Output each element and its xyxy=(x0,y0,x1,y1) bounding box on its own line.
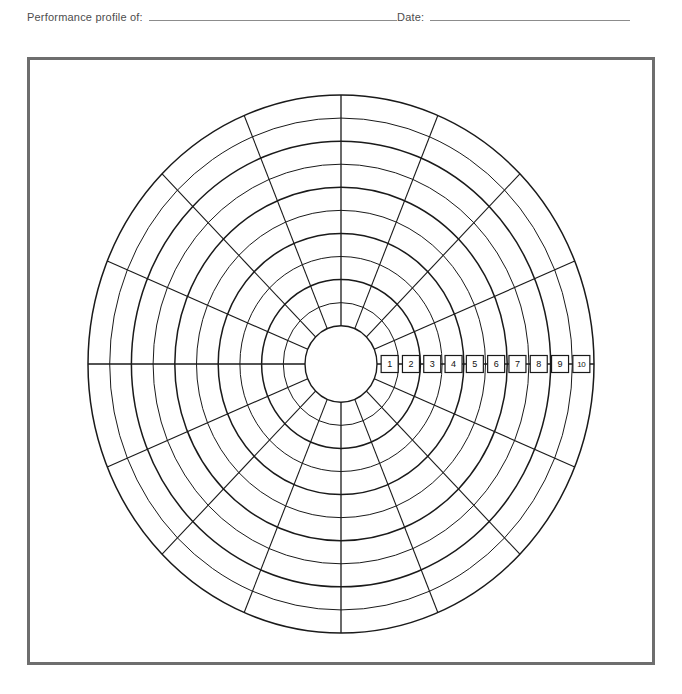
profile-field-group: Performance profile of: xyxy=(27,8,397,23)
date-field-group: Date: xyxy=(397,8,630,23)
date-input[interactable] xyxy=(430,8,630,21)
chart-frame xyxy=(27,57,655,665)
profile-input[interactable] xyxy=(149,8,397,21)
form-header: Performance profile of: Date: xyxy=(0,0,682,34)
profile-label: Performance profile of: xyxy=(27,11,143,23)
date-label: Date: xyxy=(397,11,424,23)
